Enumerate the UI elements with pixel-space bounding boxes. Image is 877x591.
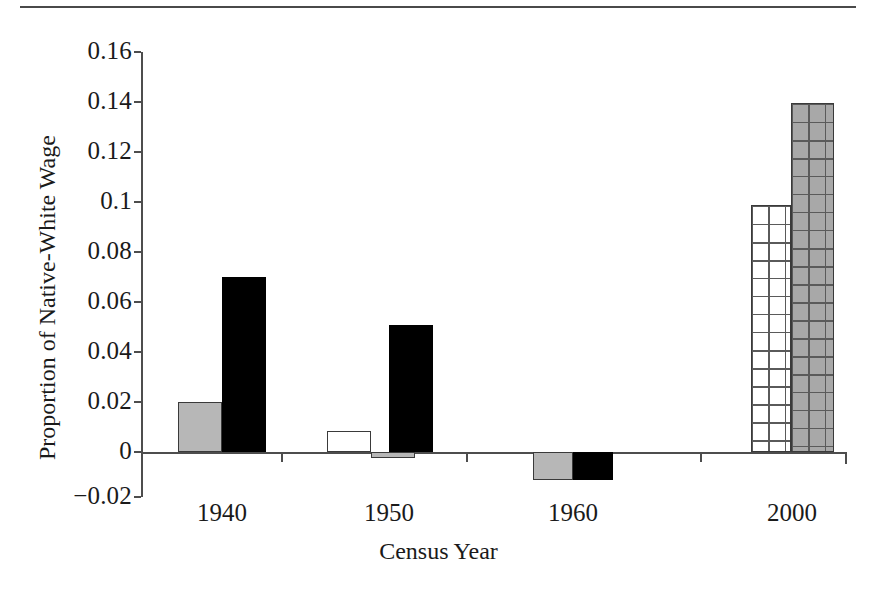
y-axis-tick-label: 0.14 xyxy=(87,88,132,113)
y-axis-tick-label: 0.06 xyxy=(87,288,132,313)
y-axis-tick xyxy=(134,151,141,153)
x-axis-tick xyxy=(281,454,283,462)
y-axis-spine xyxy=(141,52,143,497)
bar-1940-1 xyxy=(222,277,266,452)
x-axis-right-cap xyxy=(845,452,847,464)
y-axis-tick-label: 0.16 xyxy=(87,38,132,63)
y-axis-tick xyxy=(134,51,141,53)
y-axis-tick xyxy=(134,251,141,253)
bar-1950-2 xyxy=(389,325,433,453)
x-axis-tick-label: 1960 xyxy=(513,500,633,525)
x-axis-title: Census Year xyxy=(0,538,877,565)
y-axis-tick-label: 0.1 xyxy=(100,188,132,213)
x-axis-tick xyxy=(700,454,702,462)
bar-2000-1 xyxy=(791,103,834,452)
y-axis-title: Proportion of Native-White Wage xyxy=(34,135,61,460)
y-axis-tick-label: 0.12 xyxy=(87,138,132,163)
x-axis-zero-line xyxy=(141,452,845,454)
y-axis-tick xyxy=(134,401,141,403)
x-axis-tick xyxy=(466,454,468,462)
x-axis-tick-label: 2000 xyxy=(732,500,852,525)
bar-1950-0 xyxy=(327,431,371,452)
y-axis-tick-label: −0.02 xyxy=(73,483,132,508)
y-axis-tick xyxy=(134,301,141,303)
bar-2000-0 xyxy=(751,205,791,453)
chart-plot-area: 0.160.140.120.10.080.060.040.020−0.02194… xyxy=(0,0,877,591)
bar-1960-1 xyxy=(573,452,613,480)
y-axis-tick-label: 0.04 xyxy=(87,338,132,363)
y-axis-tick xyxy=(134,101,141,103)
y-axis-tick-label: 0.08 xyxy=(87,238,132,263)
y-axis-tick-label: 0 xyxy=(119,438,132,463)
bar-1940-0 xyxy=(178,402,222,452)
bar-1960-0 xyxy=(533,452,573,480)
bar-1950-1 xyxy=(371,452,415,458)
figure-container: 0.160.140.120.10.080.060.040.020−0.02194… xyxy=(0,0,877,591)
y-axis-tick xyxy=(134,201,141,203)
y-axis-tick-label: 0.02 xyxy=(87,388,132,413)
y-axis-tick xyxy=(134,351,141,353)
x-axis-tick-label: 1940 xyxy=(162,500,282,525)
y-axis-tick xyxy=(134,451,141,453)
y-axis-tick xyxy=(134,496,141,498)
x-axis-tick-label: 1950 xyxy=(329,500,449,525)
